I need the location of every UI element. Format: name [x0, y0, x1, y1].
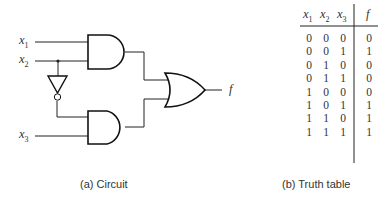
and-gate-2: [88, 111, 120, 144]
tt-cell: 0: [303, 59, 315, 71]
tt-cell: 0: [337, 32, 349, 44]
or-gate: [165, 73, 205, 107]
tt-cell: 0: [320, 32, 332, 44]
wire-not-x2: [57, 101, 88, 117]
tt-cell: 0: [337, 112, 349, 124]
junction-dot: [56, 59, 59, 62]
tt-cell: 1: [337, 72, 349, 84]
tt-cell: 1: [320, 126, 332, 138]
input-label-x1: x1: [19, 33, 29, 50]
caption-truth-table: (b) Truth table: [282, 178, 350, 190]
tt-cell: 1: [320, 72, 332, 84]
tt-cell: 0: [337, 86, 349, 98]
tt-cell: 1: [363, 45, 375, 57]
tt-header-x1: x1: [303, 7, 313, 24]
tt-cell: 0: [303, 72, 315, 84]
not-gate: [48, 76, 67, 93]
tt-header-x2: x2: [320, 7, 330, 24]
input-label-x2: x2: [19, 52, 29, 69]
tt-cell: 1: [363, 126, 375, 138]
tt-cell: 0: [320, 86, 332, 98]
tt-header-x3: x3: [337, 7, 347, 24]
tt-cell: 1: [303, 126, 315, 138]
caption-circuit: (a) Circuit: [80, 178, 128, 190]
tt-cell: 0: [320, 99, 332, 111]
wire-and2-out: [125, 99, 168, 127]
tt-cell: 0: [337, 59, 349, 71]
tt-cell: 1: [303, 112, 315, 124]
wire-and1-out: [125, 52, 168, 80]
tt-header-f: f: [366, 7, 369, 22]
tt-cell: 1: [337, 45, 349, 57]
tt-cell: 1: [303, 86, 315, 98]
tt-cell: 1: [363, 99, 375, 111]
tt-cell: 1: [303, 99, 315, 111]
tt-cell: 1: [363, 112, 375, 124]
tt-cell: 1: [320, 59, 332, 71]
not-gate-bubble: [54, 94, 60, 100]
tt-cell: 0: [303, 32, 315, 44]
and-gate-1: [88, 35, 124, 69]
output-label-f: f: [229, 82, 232, 97]
input-label-x3: x3: [19, 127, 29, 144]
tt-cell: 1: [320, 112, 332, 124]
tt-cell: 0: [363, 32, 375, 44]
tt-cell: 0: [303, 45, 315, 57]
tt-cell: 0: [320, 45, 332, 57]
tt-cell: 0: [363, 59, 375, 71]
tt-cell: 1: [337, 126, 349, 138]
tt-cell: 0: [363, 72, 375, 84]
tt-cell: 0: [363, 86, 375, 98]
tt-cell: 1: [337, 99, 349, 111]
